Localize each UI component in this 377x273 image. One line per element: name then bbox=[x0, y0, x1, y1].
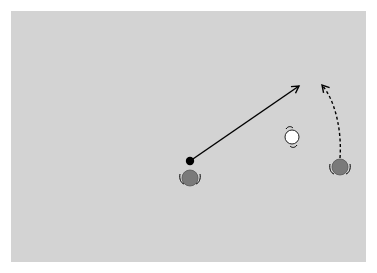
player-b-icon bbox=[285, 127, 299, 148]
player-c-icon bbox=[330, 159, 351, 175]
run-arrow bbox=[322, 85, 340, 158]
player-a-icon bbox=[180, 170, 201, 186]
tactics-diagram bbox=[0, 0, 377, 273]
ball-icon bbox=[186, 157, 194, 165]
pass-arrow bbox=[190, 86, 299, 161]
